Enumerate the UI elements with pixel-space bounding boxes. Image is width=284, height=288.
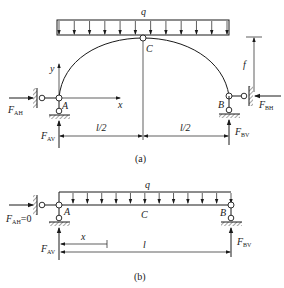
caption-b: (b) bbox=[134, 271, 146, 283]
hinge-right-link bbox=[241, 93, 247, 99]
hinge-left-link-b bbox=[39, 202, 45, 208]
three-hinged-arch-diagram: q y x A C FAH FAV bbox=[0, 0, 284, 288]
force-label-fah: FAH bbox=[7, 104, 23, 116]
force-label-fav: FAV bbox=[40, 130, 56, 142]
label-a-b: A bbox=[63, 206, 71, 217]
hinge-a-support bbox=[56, 108, 62, 114]
label-a: A bbox=[61, 100, 69, 111]
hinge-left-link bbox=[39, 95, 45, 101]
left-wall-hatch bbox=[33, 88, 37, 108]
label-c-b: C bbox=[141, 209, 148, 220]
caption-a: (a) bbox=[135, 153, 146, 165]
x-axis-label: x bbox=[117, 99, 123, 110]
span-label-left: l/2 bbox=[96, 122, 107, 133]
load-label-q-b: q bbox=[145, 179, 150, 190]
right-wall-hatch bbox=[249, 86, 253, 106]
hinge-a-support-b bbox=[56, 215, 62, 221]
hinge-b-support bbox=[226, 107, 232, 113]
figure-b: q A C B FAH=0 FAV FBV bbox=[5, 179, 252, 283]
force-label-fav-b: FAV bbox=[40, 243, 56, 255]
distributed-load-b: q bbox=[59, 179, 231, 205]
rise-label-f: f bbox=[243, 59, 247, 70]
load-label-q: q bbox=[141, 6, 146, 17]
span-label-right: l/2 bbox=[180, 122, 191, 133]
distributed-load-a: q bbox=[57, 6, 229, 35]
arch-curve bbox=[59, 38, 229, 98]
force-label-fah-b: FAH=0 bbox=[5, 213, 31, 225]
span-label-l: l bbox=[143, 239, 146, 250]
y-axis-label: y bbox=[49, 63, 55, 74]
label-b-b: B bbox=[220, 207, 226, 218]
hinge-b-support-b bbox=[228, 215, 234, 221]
hinge-a-b bbox=[56, 202, 62, 208]
hinge-b-b bbox=[228, 202, 234, 208]
label-b: B bbox=[218, 99, 224, 110]
force-label-fbv-b: FBV bbox=[236, 236, 252, 248]
left-wall-hatch-b bbox=[33, 195, 37, 215]
position-label-x: x bbox=[80, 231, 86, 242]
label-c: C bbox=[146, 43, 153, 54]
hinge-c bbox=[140, 35, 146, 41]
force-label-fbv: FBV bbox=[234, 126, 250, 138]
figure-a: q y x A C FAH FAV bbox=[7, 6, 281, 165]
force-label-fbh: FBH bbox=[258, 99, 274, 111]
